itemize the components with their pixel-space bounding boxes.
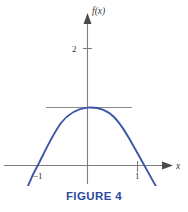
x-axis-label: x xyxy=(175,161,181,171)
x-tick-label-1: 1 xyxy=(135,171,140,181)
figure-caption: FIGURE 4 xyxy=(0,190,188,202)
y-axis-label: f(x) xyxy=(92,6,105,17)
coordinate-plot: f(x) x 2 −1 1 xyxy=(0,0,188,186)
plot-area: f(x) x 2 −1 1 xyxy=(0,0,188,186)
figure-container: f(x) x 2 −1 1 FIGURE 4 xyxy=(0,0,188,212)
y-axis-arrow-icon xyxy=(84,13,92,24)
x-tick-label-neg1: −1 xyxy=(33,171,43,181)
y-tick-label-2: 2 xyxy=(72,44,77,54)
x-axis-arrow-icon xyxy=(162,162,173,170)
